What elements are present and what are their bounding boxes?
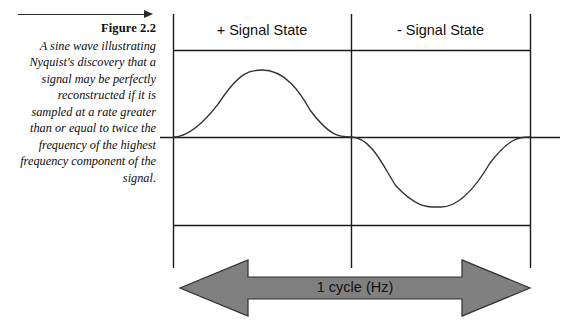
- cycle-label: 1 cycle (Hz): [180, 279, 530, 295]
- negative-signal-state-label: - Signal State: [351, 22, 530, 38]
- figure-page: Figure 2.2 A sine wave illustrating Nyqu…: [0, 0, 584, 325]
- sine-wave-diagram: + Signal State - Signal State 1 cycle (H…: [0, 0, 584, 325]
- positive-signal-state-label: + Signal State: [173, 22, 351, 38]
- diagram-canvas: [0, 0, 584, 325]
